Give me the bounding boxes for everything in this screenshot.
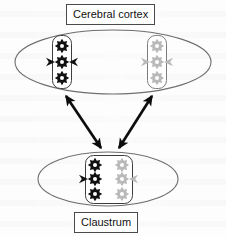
neuron-cell (55, 39, 69, 53)
neuron-cell (115, 172, 129, 186)
claustrum-label: Claustrum (74, 212, 138, 233)
cerebral-cortex-label: Cerebral cortex (66, 4, 155, 25)
region-cerebral-cortex (15, 30, 211, 94)
neuron-cell (88, 158, 102, 172)
cortex-cluster-right (141, 36, 173, 89)
claustrum-cluster-right (115, 158, 138, 201)
cerebral-cortex-ellipse (15, 30, 211, 94)
diagram-graphics (0, 0, 226, 236)
cortex-cluster-left (46, 36, 78, 89)
connections (66, 96, 152, 148)
neuron-cell (88, 172, 102, 186)
neuron-cell (150, 55, 164, 69)
region-claustrum (38, 152, 178, 206)
neuron-cell (115, 187, 129, 201)
neuron-cell (55, 71, 69, 85)
neuron-cell (115, 158, 129, 172)
neuron-cell (150, 71, 164, 85)
connection-right-arrow (119, 96, 152, 148)
neuron-cell (150, 39, 164, 53)
neuron-cell (88, 187, 102, 201)
claustrum-cluster-left (79, 158, 102, 201)
neuron-cell (55, 55, 69, 69)
diagram-canvas: Cerebral cortex Claustrum (0, 0, 226, 236)
connection-left-arrow (66, 96, 101, 148)
